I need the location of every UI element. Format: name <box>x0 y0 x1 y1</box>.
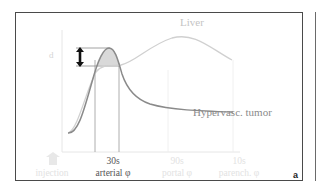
injection-label: injection <box>28 169 76 179</box>
tick-time-portal: 90s <box>160 157 194 167</box>
injection-syringe-icon <box>46 152 60 165</box>
liver-curve-label: Liver <box>180 17 204 28</box>
tumor-curve-label: Hypervasc. tumor <box>193 107 272 118</box>
tick-phase-parench: parench. φ <box>212 169 266 179</box>
panel-letter: a <box>293 171 298 180</box>
tick-phase-portal: portal φ <box>150 169 204 179</box>
tumor-curve <box>68 48 233 133</box>
y-axis-label: d <box>49 51 54 60</box>
tick-time-arterial: 30s <box>96 157 130 167</box>
enhancement-difference-area <box>96 48 119 66</box>
tick-time-parench: 10s <box>222 157 256 167</box>
liver-curve <box>68 37 232 133</box>
enhancement-curve-plot <box>0 0 318 191</box>
difference-double-arrow-icon <box>76 47 84 67</box>
tick-phase-arterial: arterial φ <box>86 169 140 179</box>
